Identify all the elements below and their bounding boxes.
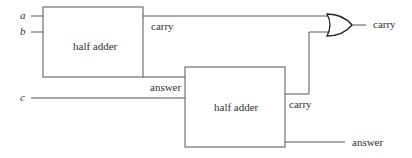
half-adder-1-label: half adder	[73, 41, 117, 52]
circuit-diagram	[0, 0, 412, 158]
or-gate-icon	[327, 14, 352, 36]
ha1-carry-label: carry	[151, 21, 174, 32]
half-adder-2-label: half adder	[214, 102, 258, 113]
input-b-label: b	[20, 26, 26, 37]
ha1-answer-label: answer	[150, 82, 181, 93]
final-answer-label: answer	[352, 137, 383, 148]
or-output-carry-label: carry	[373, 19, 396, 30]
wire-ha2-carry	[285, 32, 330, 94]
input-c-label: c	[20, 92, 25, 103]
ha2-carry-label: carry	[289, 99, 312, 110]
input-a-label: a	[20, 10, 26, 21]
